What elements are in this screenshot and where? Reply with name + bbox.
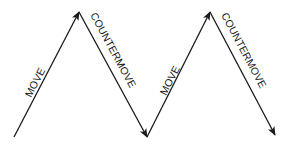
segment-2: COUNTERMOVE [79,10,147,137]
segment-3: MOVE [147,12,210,137]
move-countermove-diagram: MOVE COUNTERMOVE MOVE COUNTERMOVE [0,0,295,149]
segment-label: COUNTERMOVE [88,10,139,89]
segment-1: MOVE [14,12,79,137]
arrow-down-2 [210,12,275,135]
segment-4: COUNTERMOVE [210,10,275,135]
arrow-up-1 [14,12,79,137]
segment-label: MOVE [22,66,47,99]
arrow-down-1 [79,12,147,137]
segment-label: MOVE [157,64,182,97]
